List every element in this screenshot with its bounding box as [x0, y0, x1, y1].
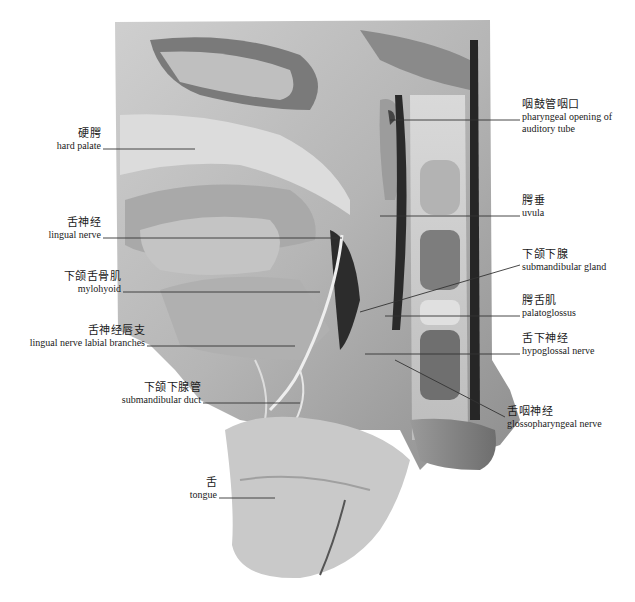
label-zh: 咽鼓管咽口 [522, 99, 612, 111]
label-zh: 下颌舌骨肌 [64, 271, 122, 283]
label-zh: 舌下神经 [522, 333, 595, 345]
label-palatoglossus: 腭舌肌 palatoglossus [522, 295, 576, 319]
figure-caption [0, 586, 635, 600]
label-zh: 舌神经唇支 [30, 325, 145, 337]
label-glossopharyngeal-nerve: 舌咽神经 glossopharyngeal nerve [507, 406, 602, 430]
label-en: glossopharyngeal nerve [507, 418, 602, 430]
label-submandibular-gland: 下颌下腺 submandibular gland [522, 249, 606, 273]
label-submandibular-duct: 下颌下腺管 submandibular duct [122, 382, 201, 406]
label-zh: 舌神经 [49, 217, 101, 229]
label-lingual-nerve: 舌神经 lingual nerve [49, 217, 101, 241]
label-en: hard palate [57, 140, 101, 152]
label-hypoglossal-nerve: 舌下神经 hypoglossal nerve [522, 333, 595, 357]
label-en: tongue [190, 489, 217, 501]
label-mylohyoid: 下颌舌骨肌 mylohyoid [64, 271, 122, 295]
label-en: submandibular gland [522, 261, 606, 273]
label-pharyngeal-opening: 咽鼓管咽口 pharyngeal opening of auditory tub… [522, 99, 612, 135]
tongue-region [225, 417, 410, 578]
label-zh: 腭垂 [522, 195, 545, 207]
label-en-line2: auditory tube [522, 123, 612, 135]
label-en: hypoglossal nerve [522, 345, 595, 357]
label-lingual-nerve-labial-branches: 舌神经唇支 lingual nerve labial branches [30, 325, 145, 349]
label-tongue: 舌 tongue [190, 477, 217, 501]
label-zh: 下颌下腺 [522, 249, 606, 261]
label-uvula: 腭垂 uvula [522, 195, 545, 219]
label-zh: 硬腭 [57, 128, 101, 140]
label-en: uvula [522, 207, 545, 219]
label-en: mylohyoid [64, 283, 122, 295]
label-hard-palate: 硬腭 hard palate [57, 128, 101, 152]
label-en: palatoglossus [522, 307, 576, 319]
anatomy-figure: 硬腭 hard palate 舌神经 lingual nerve 下颌舌骨肌 m… [0, 0, 635, 602]
label-zh: 腭舌肌 [522, 295, 576, 307]
label-en: pharyngeal opening of [522, 111, 612, 123]
label-zh: 下颌下腺管 [122, 382, 201, 394]
label-en: lingual nerve [49, 229, 101, 241]
label-zh: 舌 [190, 477, 217, 489]
label-en: submandibular duct [122, 394, 201, 406]
label-en: lingual nerve labial branches [30, 337, 145, 349]
label-zh: 舌咽神经 [507, 406, 602, 418]
